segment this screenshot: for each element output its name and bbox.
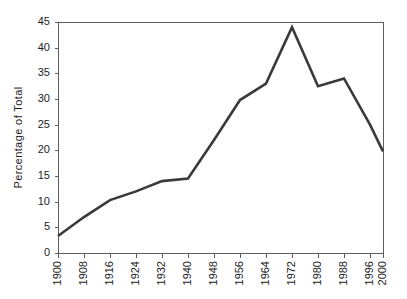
x-tick-label: 1924 [129, 261, 141, 285]
x-tick-label: 1972 [285, 261, 297, 285]
y-axis-title-label: Percentage of Total [12, 86, 24, 188]
y-tick-label: 30 [38, 92, 50, 104]
x-tick-label: 1932 [155, 261, 167, 285]
y-tick-label: 25 [38, 118, 50, 130]
x-tick-label: 2000 [376, 261, 388, 285]
y-tick-label: 35 [38, 66, 50, 78]
y-tick-label: 45 [38, 15, 50, 27]
data-line-percentage-of-total [58, 27, 383, 236]
y-tick-label: 20 [38, 143, 50, 155]
line-chart: 051015202530354045 190019081916192419321… [0, 0, 407, 299]
plot-frame-border [59, 23, 384, 254]
x-tick-label: 1916 [103, 261, 115, 285]
x-tick-label: 1988 [337, 261, 349, 285]
y-tick-label: 0 [44, 246, 50, 258]
x-tick-label: 1908 [77, 261, 89, 285]
plot-frame [59, 23, 384, 254]
x-tick-label: 1900 [51, 261, 63, 285]
y-axis-tick-marks [55, 23, 59, 254]
y-tick-label: 40 [38, 41, 50, 53]
data-series-group [58, 27, 383, 236]
y-tick-label: 15 [38, 169, 50, 181]
x-tick-label: 1948 [207, 261, 219, 285]
x-axis-tick-labels: 1900190819161924193219401948195619641972… [51, 261, 388, 285]
x-tick-label: 1980 [311, 261, 323, 285]
x-tick-label: 1964 [259, 261, 271, 285]
x-tick-label: 1940 [181, 261, 193, 285]
y-axis-tick-labels: 051015202530354045 [38, 15, 50, 258]
y-axis-title: Percentage of Total [12, 86, 24, 188]
x-tick-label: 1996 [363, 261, 375, 285]
y-tick-label: 5 [44, 220, 50, 232]
chart-canvas: 051015202530354045 190019081916192419321… [0, 0, 407, 299]
x-axis-tick-marks [59, 254, 384, 258]
y-tick-label: 10 [38, 195, 50, 207]
x-tick-label: 1956 [233, 261, 245, 285]
